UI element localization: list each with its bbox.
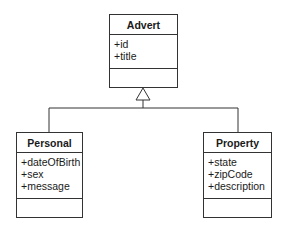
generalization-arrow-icon [136, 88, 150, 100]
class-property[interactable]: Property +state +zipCode +description [203, 132, 272, 218]
class-personal[interactable]: Personal +dateOfBirth +sex +message [16, 132, 83, 218]
attribute: +title [114, 50, 177, 62]
attribute: +description [208, 180, 271, 192]
class-advert[interactable]: Advert +id +title [109, 14, 178, 88]
attribute: +id [114, 38, 177, 50]
class-name: Personal [17, 133, 82, 153]
attribute: +zipCode [208, 168, 271, 180]
attribute: +dateOfBirth [21, 156, 82, 168]
class-name: Property [204, 133, 271, 153]
attributes-compartment: +state +zipCode +description [204, 153, 271, 199]
attribute: +state [208, 156, 271, 168]
attribute: +sex [21, 168, 82, 180]
attribute: +message [21, 180, 82, 192]
class-name: Advert [110, 15, 177, 35]
attributes-compartment: +id +title [110, 35, 177, 69]
attributes-compartment: +dateOfBirth +sex +message [17, 153, 82, 199]
